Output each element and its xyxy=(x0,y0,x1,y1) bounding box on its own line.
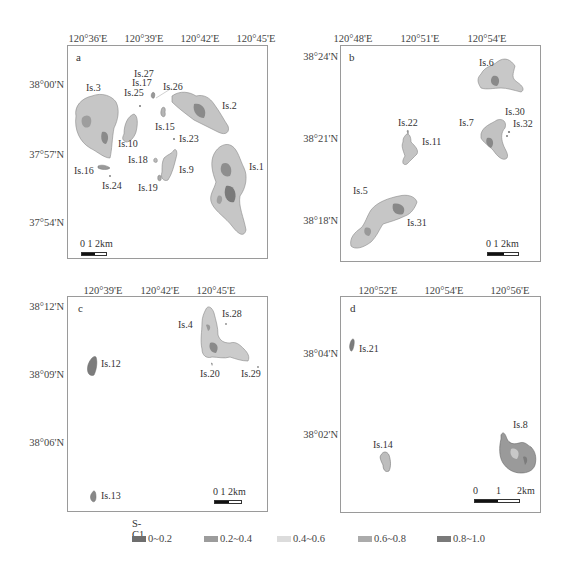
island-label: Is.8 xyxy=(513,419,528,430)
scale-label-1: 1 xyxy=(496,485,501,496)
legend-item: 0.6~0.8 xyxy=(358,533,406,544)
island-label: Is.2 xyxy=(222,100,237,111)
legend-swatch xyxy=(204,536,218,542)
y-tick-label: 38°18'N xyxy=(303,215,338,226)
scale-label: 0 1 2km xyxy=(213,486,246,497)
legend-item: 0~0.2 xyxy=(132,533,172,544)
island-label: Is.26 xyxy=(163,81,183,92)
legend-label: 0.8~1.0 xyxy=(453,533,485,544)
island-label: Is.16 xyxy=(74,165,94,176)
x-tick-label: 120°42'E xyxy=(141,285,180,296)
y-tick-label: 38°21'N xyxy=(303,133,338,144)
island-label: Is.10 xyxy=(118,138,138,149)
x-tick-label: 120°54'E xyxy=(468,33,507,44)
y-tick-label: 38°06'N xyxy=(29,437,64,448)
y-tick-label: 38°02'N xyxy=(303,429,338,440)
island-map-a xyxy=(68,46,269,260)
legend-item: 0.8~1.0 xyxy=(437,533,485,544)
scale-label-2: 2km xyxy=(517,485,535,496)
x-tick-label: 120°52'E xyxy=(359,285,398,296)
island-label: Is.13 xyxy=(101,490,121,501)
island-label: Is.20 xyxy=(200,368,220,379)
legend-swatch xyxy=(358,536,372,542)
scale-label: 0 1 2km xyxy=(486,238,519,249)
island-label: Is.1 xyxy=(249,161,264,172)
island-label: Is.3 xyxy=(86,82,101,93)
legend-swatch xyxy=(437,536,451,542)
island-label: Is.12 xyxy=(101,358,121,369)
scale-bar-graphic xyxy=(214,500,242,504)
y-tick-label: 37°54'N xyxy=(29,217,64,228)
x-tick-label: 120°39'E xyxy=(84,285,123,296)
island-label: Is.7 xyxy=(459,117,474,128)
island-label: Is.19 xyxy=(138,182,158,193)
x-tick-label: 120°36'E xyxy=(69,33,108,44)
island-label: Is.28 xyxy=(222,308,242,319)
island-label: Is.24 xyxy=(102,180,122,191)
x-tick-label: 120°54'E xyxy=(425,285,464,296)
island-label: Is.4 xyxy=(178,319,193,330)
island-map-d xyxy=(341,297,542,514)
island-label: Is.5 xyxy=(353,185,368,196)
legend-label: 0.4~0.6 xyxy=(293,533,325,544)
x-tick-label: 120°48'E xyxy=(334,33,373,44)
x-tick-label: 120°45'E xyxy=(197,285,236,296)
island-label: Is.9 xyxy=(179,164,194,175)
x-tick-label: 120°45'E xyxy=(237,33,276,44)
island-label: Is.30 xyxy=(505,106,525,117)
legend-label: 0.6~0.8 xyxy=(374,533,406,544)
legend-swatch xyxy=(277,536,291,542)
map-frame-b: b Is.6 Is.30 Is.7 Is.32 Is.22 Is.11 Is.5 xyxy=(340,45,541,262)
scale-label-0: 0 xyxy=(473,485,478,496)
y-tick-label: 38°24'N xyxy=(303,51,338,62)
island-label: Is.6 xyxy=(479,57,494,68)
y-tick-label: 38°00'N xyxy=(29,79,64,90)
y-tick-label: 38°04'N xyxy=(303,348,338,359)
island-label: Is.15 xyxy=(155,121,175,132)
island-label: Is.11 xyxy=(422,136,441,147)
island-label: Is.32 xyxy=(513,118,533,129)
legend-item: 0.2~0.4 xyxy=(204,533,252,544)
island-label: Is.23 xyxy=(179,133,199,144)
island-label: Is.14 xyxy=(373,439,393,450)
x-tick-label: 120°56'E xyxy=(491,285,530,296)
scale-bar-graphic xyxy=(487,252,519,256)
map-frame-c: c Is.4 Is.28 Is.20 Is.29 Is.12 Is.13 0 1… xyxy=(67,296,268,512)
map-frame-d: d Is.21 Is.14 Is.8 0 1 2km xyxy=(340,296,541,513)
island-label: Is.21 xyxy=(359,343,379,354)
legend-label: 0.2~0.4 xyxy=(220,533,252,544)
island-label: Is.25 xyxy=(124,87,144,98)
x-tick-label: 120°42'E xyxy=(181,33,220,44)
x-tick-label: 120°51'E xyxy=(401,33,440,44)
legend-swatch xyxy=(132,536,146,542)
x-tick-label: 120°39'E xyxy=(125,33,164,44)
island-label: Is.18 xyxy=(128,154,148,165)
island-label: Is.29 xyxy=(241,368,261,379)
island-map-b xyxy=(341,46,542,263)
island-map-c xyxy=(68,297,269,513)
legend-item: 0.4~0.6 xyxy=(277,533,325,544)
island-label: Is.31 xyxy=(407,217,427,228)
scale-label: 0 1 2km xyxy=(80,238,113,249)
scale-bar-graphic xyxy=(474,499,520,503)
y-tick-label: 37°57'N xyxy=(29,149,64,160)
y-tick-label: 38°09'N xyxy=(29,369,64,380)
map-frame-a: a xyxy=(67,45,268,259)
scale-bar-graphic xyxy=(81,252,107,256)
y-tick-label: 38°12'N xyxy=(29,301,64,312)
legend-label: 0~0.2 xyxy=(148,533,172,544)
island-label: Is.22 xyxy=(398,117,418,128)
